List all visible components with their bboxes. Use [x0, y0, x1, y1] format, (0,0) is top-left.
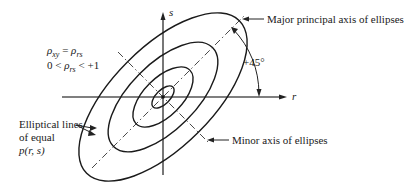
angle-arrow-bottom-icon — [257, 89, 262, 97]
elliptical-leader-2-arrow-icon — [88, 130, 96, 136]
ellipse-diagram — [0, 0, 419, 184]
r-axis-arrow-icon — [279, 95, 287, 100]
major-axis-line — [92, 15, 245, 168]
elliptical-lines-label-3: p(r, s) — [19, 144, 45, 157]
elliptical-lines-label-1: Elliptical lines — [19, 118, 83, 131]
minor-axis-label: Minor axis of ellipses — [232, 134, 328, 147]
r-axis-label: r — [292, 90, 296, 103]
major-axis-label: Major principal axis of ellipses — [267, 13, 404, 26]
s-axis-arrow-icon — [161, 12, 166, 20]
angle-label: +45° — [243, 56, 265, 69]
s-axis-label: s — [169, 6, 173, 19]
elliptical-lines-label-2: of equal — [19, 131, 55, 144]
elliptical-leader-1-arrow-icon — [90, 125, 97, 131]
correlation-range: 0 < ρrs < +1 — [47, 58, 99, 77]
center-point — [161, 95, 165, 99]
